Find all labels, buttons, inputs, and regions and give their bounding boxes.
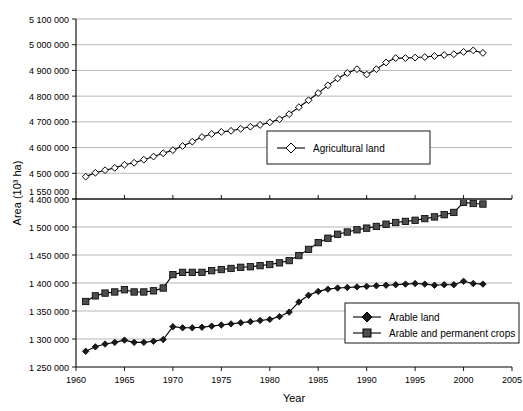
- data-point-marker: [121, 287, 127, 293]
- data-point-marker: [238, 264, 244, 270]
- legend-lower-label-1: Arable and permanent crops: [389, 328, 515, 339]
- y-tick-label-upper-6: 5 000 000: [29, 40, 69, 50]
- data-point-marker: [179, 269, 185, 275]
- legend-arable[interactable]: Arable land Arable and permanent crops: [345, 303, 519, 343]
- data-point-marker: [373, 223, 379, 229]
- x-tick-label-4: 1980: [260, 375, 280, 385]
- y-tick-label-lower-0: 1 250 000: [29, 363, 69, 373]
- data-point-marker: [363, 225, 369, 231]
- data-point-marker: [470, 200, 476, 206]
- data-point-marker: [441, 211, 447, 217]
- y-tick-label-upper-1: 4 500 000: [29, 169, 69, 179]
- data-point-marker: [460, 199, 466, 205]
- data-point-marker: [150, 288, 156, 294]
- data-point-marker: [170, 271, 176, 277]
- data-point-marker: [296, 252, 302, 258]
- chart-container: 4 400 0004 500 0004 600 0004 700 0004 80…: [0, 0, 523, 411]
- data-point-marker: [480, 201, 486, 207]
- chart-background: [0, 0, 523, 411]
- data-point-marker: [160, 285, 166, 291]
- data-point-marker: [82, 298, 88, 304]
- data-point-marker: [208, 267, 214, 273]
- data-point-marker: [393, 219, 399, 225]
- y-tick-label-upper-5: 4 900 000: [29, 66, 69, 76]
- x-tick-label-2: 1970: [163, 375, 183, 385]
- data-point-marker: [334, 231, 340, 237]
- data-point-marker: [325, 235, 331, 241]
- x-axis-title: Year: [283, 392, 306, 404]
- data-point-marker: [315, 239, 321, 245]
- x-tick-label-8: 2000: [454, 375, 474, 385]
- data-point-marker: [228, 265, 234, 271]
- legend-agricultural-land[interactable]: Agricultural land: [267, 131, 430, 164]
- x-tick-label-7: 1995: [405, 375, 425, 385]
- y-tick-label-upper-3: 4 700 000: [29, 117, 69, 127]
- data-point-marker: [305, 246, 311, 252]
- data-point-marker: [102, 290, 108, 296]
- legend-upper-label-0: Agricultural land: [313, 143, 385, 154]
- data-point-marker: [141, 289, 147, 295]
- data-point-marker: [276, 260, 282, 266]
- data-point-marker: [344, 229, 350, 235]
- data-point-marker: [247, 264, 253, 270]
- legend-lower-label-0: Arable land: [389, 312, 440, 323]
- y-tick-label-lower-4: 1 450 000: [29, 251, 69, 261]
- broken-axis-line-chart: 4 400 0004 500 0004 600 0004 700 0004 80…: [0, 0, 523, 411]
- x-tick-label-3: 1975: [211, 375, 231, 385]
- data-point-marker: [286, 257, 292, 263]
- data-point-marker: [92, 293, 98, 299]
- y-tick-label-lower-2: 1 350 000: [29, 307, 69, 317]
- y-tick-label-lower-6: 1 550 000: [29, 187, 69, 197]
- x-tick-label-5: 1985: [308, 375, 328, 385]
- data-point-marker: [412, 217, 418, 223]
- data-point-marker: [218, 266, 224, 272]
- data-point-marker: [383, 221, 389, 227]
- data-point-marker: [257, 262, 263, 268]
- filled-square-icon: [363, 329, 371, 337]
- x-tick-label-0: 1960: [66, 375, 86, 385]
- data-point-marker: [431, 214, 437, 220]
- x-tick-label-9: 2005: [502, 375, 522, 385]
- y-axis-title: Area (10³ ha): [11, 161, 23, 226]
- data-point-marker: [402, 218, 408, 224]
- data-point-marker: [112, 289, 118, 295]
- x-tick-label-6: 1990: [357, 375, 377, 385]
- data-point-marker: [131, 289, 137, 295]
- y-tick-label-lower-5: 1 500 000: [29, 223, 69, 233]
- data-point-marker: [267, 261, 273, 267]
- y-tick-label-lower-1: 1 300 000: [29, 335, 69, 345]
- y-tick-label-upper-7: 5 100 000: [29, 15, 69, 25]
- data-point-marker: [354, 227, 360, 233]
- y-tick-label-lower-3: 1 400 000: [29, 279, 69, 289]
- y-tick-label-upper-2: 4 600 000: [29, 143, 69, 153]
- data-point-marker: [422, 215, 428, 221]
- y-tick-label-upper-4: 4 800 000: [29, 92, 69, 102]
- x-tick-label-1: 1965: [114, 375, 134, 385]
- data-point-marker: [199, 269, 205, 275]
- data-point-marker: [451, 209, 457, 215]
- data-point-marker: [189, 269, 195, 275]
